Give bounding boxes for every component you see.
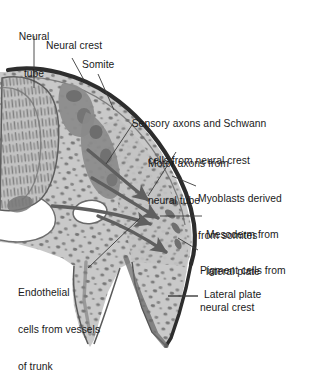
label-neural-crest: Neural crest xyxy=(46,40,102,52)
label-somite: Somite xyxy=(82,59,114,71)
label-endothelial: Endothelial cells from vessels of trunk xyxy=(18,262,100,374)
label-neural-tube: Neural tube xyxy=(6,6,62,105)
label-lateral-plate: Lateral plate xyxy=(204,289,261,301)
